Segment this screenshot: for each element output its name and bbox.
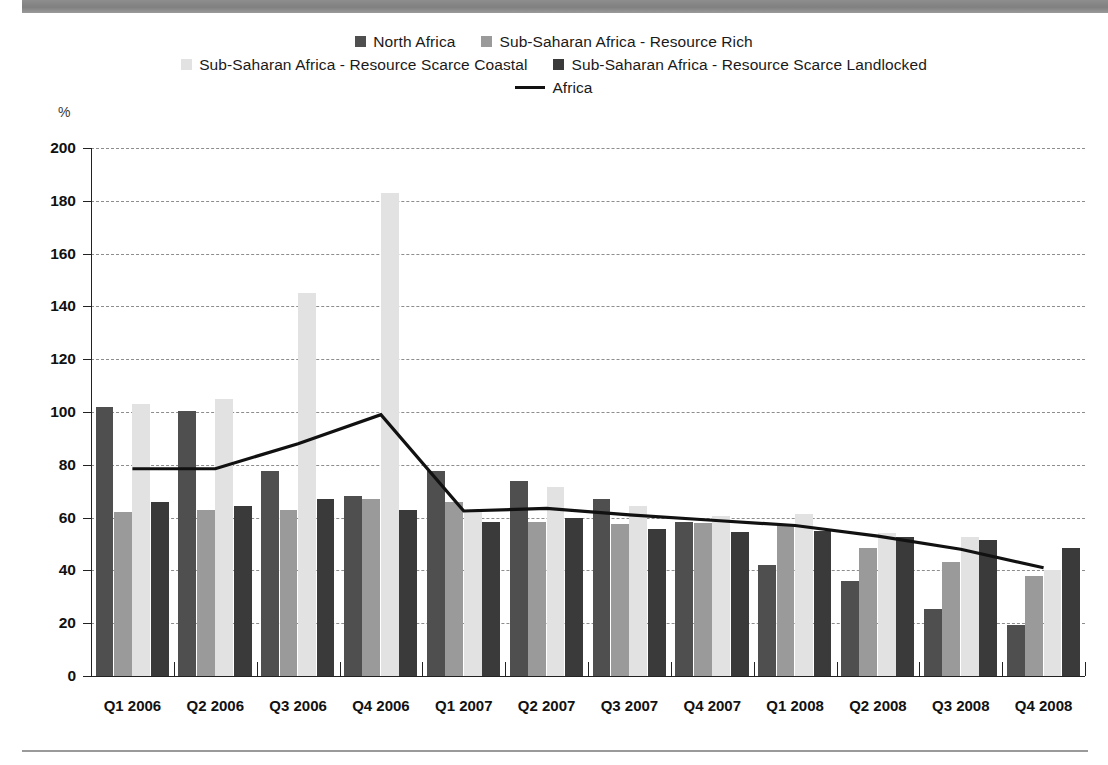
y-tickmark [83, 570, 91, 571]
x-tickmark [837, 662, 838, 676]
bar [96, 407, 114, 676]
x-tickmark [422, 662, 423, 676]
bar [1062, 548, 1080, 676]
x-axis-label: Q3 2008 [932, 697, 990, 714]
y-tick-label: 160 [30, 245, 76, 263]
bar [758, 565, 776, 676]
bar [1025, 576, 1043, 676]
x-tickmark [588, 662, 589, 676]
x-axis-label: Q4 2008 [1015, 697, 1073, 714]
bar [280, 510, 298, 676]
bar [381, 193, 399, 676]
chart-plot-area: 020406080100120140160180200 Q1 2006Q2 20… [0, 0, 1108, 765]
y-tickmark [83, 518, 91, 519]
x-tickmark [505, 662, 506, 676]
y-tick-label: 40 [30, 561, 76, 579]
x-axis-label: Q2 2008 [849, 697, 907, 714]
x-axis-label: Q4 2006 [352, 697, 410, 714]
x-tickmark [257, 662, 258, 676]
bar [694, 523, 712, 676]
bar [859, 548, 877, 676]
bar [528, 522, 546, 676]
x-tickmark [754, 662, 755, 676]
bottom-rule [22, 750, 1088, 752]
x-axis-label: Q3 2007 [601, 697, 659, 714]
bar [510, 481, 528, 676]
y-tickmark [83, 412, 91, 413]
y-tickmark [83, 306, 91, 307]
bar [712, 516, 730, 676]
bar [593, 499, 611, 676]
bar [445, 502, 463, 676]
bar [629, 506, 647, 676]
x-tickmark [1002, 662, 1003, 676]
bar [878, 533, 896, 676]
bar [648, 529, 666, 676]
y-tickmark [83, 623, 91, 624]
bar [675, 522, 693, 676]
bar [795, 514, 813, 676]
x-tickmark [174, 662, 175, 676]
bar [924, 609, 942, 676]
y-tick-label: 180 [30, 192, 76, 210]
bar [362, 499, 380, 676]
y-tickmark [83, 148, 91, 149]
x-tickmark [91, 662, 92, 676]
bar [215, 399, 233, 676]
y-tickmark [83, 201, 91, 202]
y-tick-label: 200 [30, 139, 76, 157]
y-tick-label: 140 [30, 297, 76, 315]
bar [132, 404, 150, 676]
bar [298, 293, 316, 676]
x-tickmark [671, 662, 672, 676]
y-tickmark [83, 254, 91, 255]
x-axis-label: Q2 2006 [186, 697, 244, 714]
y-tickmark [83, 359, 91, 360]
bar [399, 510, 417, 676]
bar [731, 532, 749, 676]
bar [777, 524, 795, 676]
x-axis-label: Q1 2007 [435, 697, 493, 714]
bar [961, 537, 979, 676]
x-axis-label: Q3 2006 [269, 697, 327, 714]
x-axis-line [91, 676, 1085, 677]
bar [841, 581, 859, 676]
y-tick-label: 20 [30, 614, 76, 632]
bar [896, 537, 914, 676]
x-axis-label: Q1 2008 [766, 697, 824, 714]
y-tickmark [83, 676, 91, 677]
bar [464, 510, 482, 676]
y-tick-label: 80 [30, 456, 76, 474]
bar [234, 506, 252, 676]
bar [1044, 570, 1062, 676]
x-tickmark [340, 662, 341, 676]
bar [151, 502, 169, 676]
bar [344, 496, 362, 676]
y-tick-label: 120 [30, 350, 76, 368]
x-tickmark [919, 662, 920, 676]
bar [1007, 625, 1025, 676]
bar [547, 487, 565, 676]
y-tick-label: 0 [30, 667, 76, 685]
x-axis-label: Q1 2006 [104, 697, 162, 714]
y-tick-label: 60 [30, 509, 76, 527]
bar [942, 562, 960, 676]
bar [979, 540, 997, 676]
bar [261, 471, 279, 676]
x-axis-label: Q2 2007 [518, 697, 576, 714]
bar [814, 531, 832, 676]
bar [197, 510, 215, 676]
x-tickmark [1085, 662, 1086, 676]
bar [482, 522, 500, 676]
bar [114, 512, 132, 676]
bar [317, 499, 335, 676]
y-tick-label: 100 [30, 403, 76, 421]
bar [611, 524, 629, 676]
x-axis-label: Q4 2007 [683, 697, 741, 714]
bars-layer [91, 148, 1085, 676]
bar [178, 411, 196, 676]
bar [427, 471, 445, 676]
y-tickmark [83, 465, 91, 466]
bar [565, 518, 583, 676]
